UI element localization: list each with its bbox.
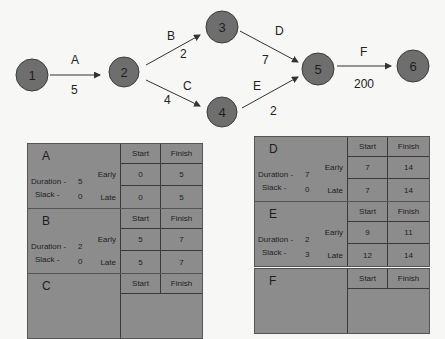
early-finish: 5: [160, 164, 202, 186]
duration-label: Duration -: [31, 242, 66, 251]
finish-header: Finish: [160, 274, 202, 294]
activity-table-b: B Duration - 2 Slack - 0 Early Late Star…: [27, 208, 203, 274]
late-label: Late: [327, 186, 343, 195]
svg-text:200: 200: [354, 77, 374, 91]
early-start: 7: [348, 157, 387, 179]
activity-table-e: E Duration - 2 Slack - 3 Early Late Star…: [254, 201, 430, 267]
node-5: 5: [302, 53, 334, 85]
late-finish: 5: [160, 186, 202, 208]
svg-text:5: 5: [71, 83, 78, 97]
svg-text:5: 5: [314, 62, 321, 77]
late-finish: 14: [387, 244, 429, 266]
activity-name: A: [42, 149, 50, 163]
early-start: 5: [121, 229, 160, 251]
svg-text:4: 4: [164, 93, 171, 107]
start-header: Start: [121, 209, 160, 229]
slack-value: 0: [78, 257, 82, 266]
early-finish: 11: [387, 222, 429, 244]
svg-text:2: 2: [120, 65, 127, 80]
node-2: 2: [109, 57, 139, 87]
activity-name: E: [269, 207, 277, 221]
activity-table-d: D Duration - 7 Slack - 0 Early Late Star…: [254, 136, 430, 202]
early-start: 0: [121, 164, 160, 186]
svg-text:A: A: [71, 53, 79, 67]
edge-F: F 200: [337, 45, 391, 91]
activity-network-diagram: A 5 B 2 C 4 D 7 E 2 F 200 1 2 3 4: [0, 0, 445, 130]
finish-header: Finish: [160, 209, 202, 229]
edge-D: D 7: [240, 24, 298, 67]
duration-label: Duration -: [258, 235, 293, 244]
edge-A: A 5: [50, 53, 100, 97]
early-label: Early: [98, 235, 116, 244]
edge-C: C 4: [146, 79, 200, 107]
svg-text:B: B: [167, 29, 175, 43]
svg-text:D: D: [275, 24, 284, 38]
finish-header: Finish: [387, 202, 429, 222]
activity-table-f: F Start Finish: [254, 268, 430, 334]
svg-text:1: 1: [28, 68, 35, 83]
svg-text:6: 6: [409, 59, 416, 74]
duration-label: Duration -: [258, 170, 293, 179]
late-start: 12: [348, 244, 387, 266]
early-start: 9: [348, 222, 387, 244]
svg-text:2: 2: [270, 104, 277, 118]
slack-label: Slack -: [35, 190, 59, 199]
start-header: Start: [348, 137, 387, 157]
late-label: Late: [100, 193, 116, 202]
node-4: 4: [207, 97, 237, 127]
start-header: Start: [348, 269, 387, 289]
activity-name: B: [42, 214, 50, 228]
late-label: Late: [327, 251, 343, 260]
node-3: 3: [206, 11, 238, 43]
late-start: 5: [121, 251, 160, 273]
node-6: 6: [397, 50, 429, 82]
early-finish: 14: [387, 157, 429, 179]
duration-value: 5: [78, 177, 82, 186]
node-1: 1: [16, 59, 48, 91]
slack-value: 0: [78, 192, 82, 201]
duration-label: Duration -: [31, 177, 66, 186]
slack-value: 0: [305, 185, 309, 194]
svg-text:3: 3: [218, 20, 225, 35]
early-label: Early: [98, 170, 116, 179]
late-start: 7: [348, 179, 387, 201]
late-finish: 14: [387, 179, 429, 201]
start-header: Start: [348, 202, 387, 222]
duration-value: 7: [305, 170, 309, 179]
edge-B: B 2: [146, 29, 200, 65]
svg-text:C: C: [183, 79, 192, 93]
slack-label: Slack -: [262, 248, 286, 257]
late-start: 0: [121, 186, 160, 208]
slack-label: Slack -: [35, 255, 59, 264]
start-header: Start: [121, 274, 160, 294]
late-finish: 7: [160, 251, 202, 273]
late-label: Late: [100, 258, 116, 267]
edge-E: E 2: [242, 77, 298, 118]
activity-name: C: [42, 279, 51, 293]
activity-name: F: [269, 274, 276, 288]
slack-label: Slack -: [262, 183, 286, 192]
early-finish: 7: [160, 229, 202, 251]
early-label: Early: [325, 163, 343, 172]
finish-header: Finish: [387, 137, 429, 157]
finish-header: Finish: [160, 144, 202, 164]
svg-text:2: 2: [180, 47, 187, 61]
start-header: Start: [121, 144, 160, 164]
svg-text:E: E: [253, 79, 261, 93]
svg-text:F: F: [360, 45, 367, 59]
duration-value: 2: [78, 242, 82, 251]
finish-header: Finish: [387, 269, 429, 289]
early-label: Early: [325, 228, 343, 237]
duration-value: 2: [305, 235, 309, 244]
activity-name: D: [269, 142, 278, 156]
slack-value: 3: [305, 250, 309, 259]
svg-text:7: 7: [262, 53, 269, 67]
activity-table-a: A Duration - 5 Slack - 0 Early Late Star…: [27, 143, 203, 209]
activity-table-c: C Start Finish: [27, 273, 203, 339]
svg-text:4: 4: [218, 105, 225, 120]
